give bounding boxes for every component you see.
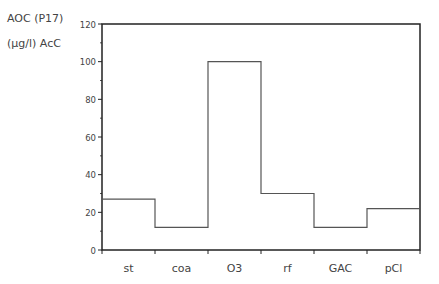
x-tick-label-st: st [123, 262, 134, 275]
y-tick-label: 120 [80, 20, 96, 30]
x-tick-label-rf: rf [283, 262, 293, 275]
x-tick-label-pcl: pCl [385, 262, 403, 275]
y-tick-label: 0 [91, 246, 96, 256]
x-tick-label-gac: GAC [329, 262, 353, 275]
y-tick-label: 100 [80, 57, 96, 67]
y-tick-label: 80 [85, 95, 96, 105]
y-tick-label: 40 [85, 170, 96, 180]
y-tick-label: 60 [85, 133, 96, 143]
x-tick-label-coa: coa [172, 262, 192, 275]
step-series-line [102, 62, 420, 228]
x-tick-label-o3: O3 [227, 262, 243, 275]
step-bar-chart: 020406080100120stcoaO3rfGACpCl [0, 0, 439, 284]
y-tick-label: 20 [85, 208, 96, 218]
